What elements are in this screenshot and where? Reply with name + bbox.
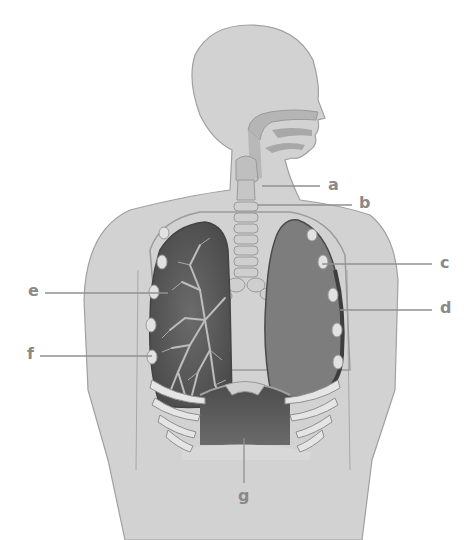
label-a-larynx: a: [328, 177, 339, 193]
label-g-diaphragm: g: [238, 488, 249, 504]
lung-cutaway: [150, 222, 232, 408]
label-e-bronchus: e: [28, 283, 39, 299]
label-d-lung: d: [440, 300, 451, 316]
respiratory-diagram: a b c d e f g: [0, 0, 475, 540]
label-b-trachea: b: [359, 195, 370, 211]
label-f-bronchiole: f: [27, 346, 34, 362]
anatomy-illustration: [0, 0, 475, 540]
label-c-rib: c: [440, 255, 449, 271]
